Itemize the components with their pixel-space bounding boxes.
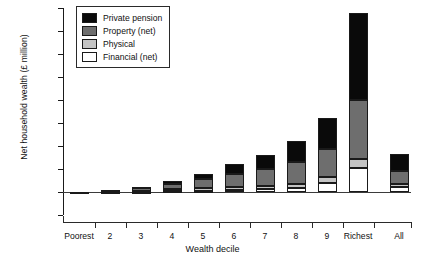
bar-segment-physical <box>256 186 275 189</box>
bar-6 <box>225 8 244 215</box>
legend-swatch-icon <box>82 13 97 23</box>
bar-segment-financial <box>163 191 182 193</box>
legend-swatch-icon <box>82 26 97 36</box>
y-tick <box>58 8 63 9</box>
x-tick <box>281 222 282 228</box>
bar-segment-pension <box>318 118 337 150</box>
y-tick <box>58 100 63 101</box>
y-axis-title: Net household wealth (£ million) <box>19 9 29 185</box>
x-tick <box>219 222 220 228</box>
bar-segment-physical <box>390 184 409 187</box>
bar-segment-physical <box>349 159 368 168</box>
bar-segment-property <box>194 179 213 189</box>
bar-segment-pension <box>256 155 275 169</box>
y-tick <box>58 77 63 78</box>
x-axis-title: Wealth decile <box>0 244 425 254</box>
bar-segment-property <box>390 171 409 184</box>
x-axis-start-cap <box>63 216 64 223</box>
bar-7 <box>256 8 275 215</box>
bar-segment-property <box>101 190 120 192</box>
bar-segment-property <box>225 174 244 188</box>
bar-segment-pension <box>163 181 182 184</box>
legend-item: Financial (net) <box>82 50 162 63</box>
y-tick <box>58 146 63 147</box>
x-tick <box>126 222 127 228</box>
bar-segment-physical <box>287 184 306 188</box>
legend: Private pensionProperty (net)PhysicalFin… <box>76 6 170 68</box>
bar-segment-pension <box>349 13 368 100</box>
bar-9 <box>318 8 337 215</box>
bar-richest <box>349 8 368 215</box>
y-tick <box>58 123 63 124</box>
bar-segment-financial <box>349 168 368 192</box>
bar-segment-pension <box>390 154 409 171</box>
legend-label: Property (net) <box>103 26 156 36</box>
bar-8 <box>287 8 306 215</box>
x-tick <box>374 222 375 228</box>
bar-segment-pension <box>132 187 151 189</box>
bar-segment-property <box>287 162 306 184</box>
x-axis-line <box>63 222 411 223</box>
x-tick <box>312 222 313 228</box>
bar-segment-financial <box>318 183 337 192</box>
legend-label: Financial (net) <box>103 52 157 62</box>
x-tick <box>95 222 96 228</box>
bar-segment-property <box>256 169 275 186</box>
x-tick <box>343 222 344 228</box>
bar-segment-pension <box>194 174 213 179</box>
bar-segment-physical <box>194 188 213 190</box>
legend-label: Private pension <box>103 13 162 23</box>
bar-segment-financial <box>225 190 244 192</box>
legend-item: Property (net) <box>82 24 162 37</box>
bar-all <box>390 8 409 215</box>
y-tick <box>58 192 63 193</box>
bar-segment-property <box>318 149 337 177</box>
bar-segment-financial <box>194 191 213 193</box>
bar-segment-property <box>349 100 368 159</box>
bar-segment-physical <box>132 191 151 193</box>
x-tick <box>157 222 158 228</box>
legend-item: Physical <box>82 37 162 50</box>
bar-segment-physical <box>318 177 337 183</box>
x-tick <box>250 222 251 228</box>
x-tick <box>188 222 189 228</box>
x-tick-label: All <box>369 231 425 241</box>
chart-figure: Net household wealth (£ million) -£0.5£0… <box>0 0 425 260</box>
legend-label: Physical <box>103 39 135 49</box>
y-tick <box>58 169 63 170</box>
x-tick <box>411 222 412 228</box>
bar-segment-property <box>163 184 182 190</box>
bar-segment-physical <box>163 189 182 191</box>
bar-segment-financial <box>287 188 306 192</box>
bar-segment-physical <box>225 187 244 190</box>
legend-item: Private pension <box>82 11 162 24</box>
bar-segment-financial <box>256 189 275 192</box>
bar-5 <box>194 8 213 215</box>
y-tick <box>58 31 63 32</box>
legend-swatch-icon <box>82 39 97 49</box>
legend-swatch-icon <box>82 52 97 62</box>
bar-segment-financial <box>390 187 409 192</box>
bar-segment-pension <box>287 141 306 162</box>
y-axis-line <box>63 8 64 215</box>
bar-segment-property <box>70 192 89 194</box>
bar-segment-pension <box>225 164 244 173</box>
y-tick <box>58 54 63 55</box>
